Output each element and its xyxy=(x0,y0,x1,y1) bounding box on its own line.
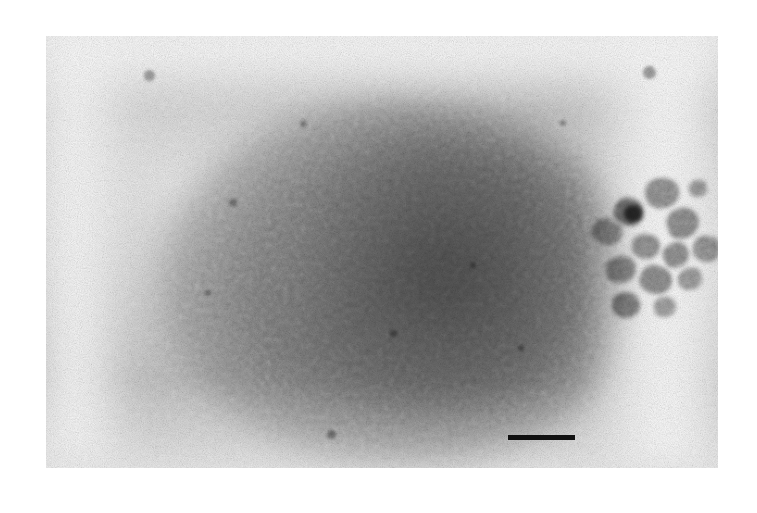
electron-micrograph-image xyxy=(46,36,718,468)
scale-bar xyxy=(508,435,575,440)
figure-root xyxy=(0,0,757,513)
coarse-grain-texture xyxy=(46,36,718,468)
